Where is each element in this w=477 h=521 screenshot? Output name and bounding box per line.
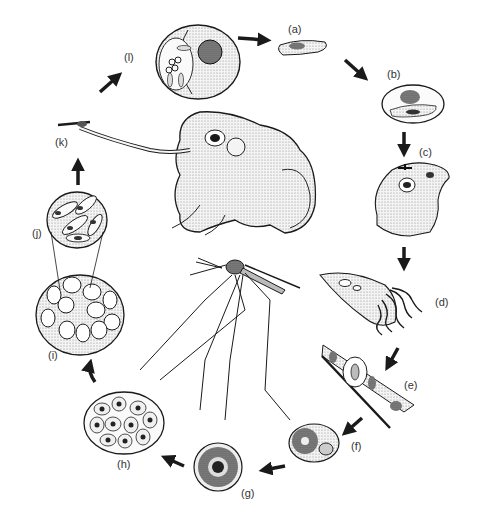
label-j: (j) [32, 228, 42, 239]
label-f: (f) [351, 441, 361, 452]
arrow-g-to-h [166, 458, 184, 466]
label-i: (i) [48, 350, 58, 361]
stage-h-sporulating-oocyst [84, 392, 164, 454]
stage-a-parasite [279, 41, 327, 55]
stage-l-host-cell [156, 25, 240, 99]
arrow-k-to-l [100, 76, 118, 92]
stage-b-red-blood-cell [382, 85, 444, 123]
stage-d-exflagellation [320, 273, 422, 335]
label-k: (k) [55, 137, 68, 148]
life-cycle-diagram [0, 0, 477, 521]
label-b: (b) [387, 69, 400, 80]
arrow-h-to-i [90, 364, 95, 382]
stage-e-gut-epithelium [322, 345, 414, 428]
central-mosquito [140, 258, 300, 420]
frog-tongue [58, 121, 190, 152]
arrow-a-to-b [345, 60, 364, 77]
label-g: (g) [241, 488, 254, 499]
label-a: (a) [288, 24, 301, 35]
arrow-d-to-e [388, 348, 398, 366]
label-l: (l) [124, 52, 134, 63]
arrow-f-to-g [264, 466, 285, 470]
label-e: (e) [404, 380, 417, 391]
label-d: (d) [435, 297, 448, 308]
stage-f-oocyst-forming [289, 424, 339, 462]
arrow-e-to-f [346, 418, 362, 432]
stage-g-mature-oocyst [194, 443, 242, 491]
label-h: (h) [117, 459, 130, 470]
label-c: (c) [419, 147, 432, 158]
stage-c-frog-bitten [375, 163, 449, 236]
central-frog [172, 112, 315, 235]
arrow-l-to-a [238, 38, 266, 40]
stage-i-oocyst-sporocysts [36, 275, 124, 355]
